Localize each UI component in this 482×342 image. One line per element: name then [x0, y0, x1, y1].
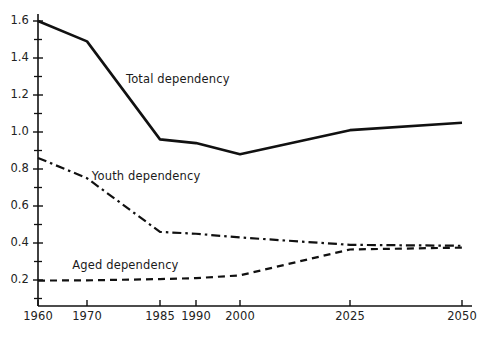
annotation-total-dependency: Total dependency	[126, 72, 230, 86]
x-tick-label: 2025	[326, 309, 374, 323]
y-tick-label: 0.6	[0, 198, 29, 212]
y-tick-label: 0.2	[0, 272, 29, 286]
y-tick-label: 1.2	[0, 87, 29, 101]
x-tick-label: 1970	[63, 309, 111, 323]
y-tick-label: 1.0	[0, 124, 29, 138]
series-layer	[38, 21, 462, 281]
y-tick-label: 0.4	[0, 235, 29, 249]
y-tick-label: 1.6	[0, 13, 29, 27]
x-tick-label: 2000	[216, 309, 264, 323]
x-tick-label: 1960	[14, 309, 62, 323]
annotation-youth-dependency: Youth dependency	[92, 169, 201, 183]
x-tick-label: 1990	[172, 309, 220, 323]
annotation-aged-dependency: Aged dependency	[72, 258, 178, 272]
x-tick-label: 2050	[438, 309, 482, 323]
dependency-ratio-chart: 0.20.40.60.81.01.21.41.6 196019701985199…	[0, 0, 482, 342]
chart-plot-area	[0, 0, 482, 342]
y-tick-label: 1.4	[0, 50, 29, 64]
x-axis-ticks	[38, 300, 462, 306]
y-tick-label: 0.8	[0, 161, 29, 175]
series-line-total-dependency	[38, 21, 462, 154]
